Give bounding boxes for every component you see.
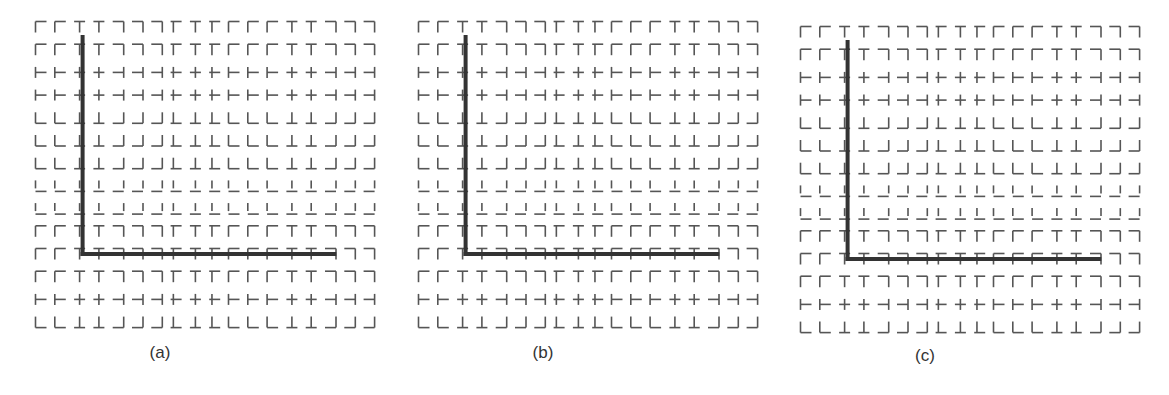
grid-glyph [1032, 185, 1043, 196]
grid-glyph [936, 140, 947, 151]
grid-glyph [1129, 276, 1140, 287]
grid-glyph [1109, 117, 1120, 128]
grid-glyph [897, 117, 908, 128]
grid-glyph [936, 299, 947, 310]
grid-glyph [1109, 72, 1120, 83]
grid-glyph [936, 27, 947, 38]
grid-glyph [994, 299, 1005, 310]
grid-glyph [878, 49, 889, 60]
grid-glyph [936, 49, 947, 60]
grid-glyph [1013, 231, 1024, 242]
grid-glyph [878, 185, 889, 196]
grid-glyph [878, 231, 889, 242]
grid-glyph [897, 72, 908, 83]
grid-glyph [1071, 163, 1082, 174]
grid-glyph [936, 276, 947, 287]
grid-glyph [897, 322, 908, 333]
grid-glyph [936, 95, 947, 106]
grid-glyph [820, 254, 831, 265]
grid-glyph [1071, 140, 1082, 151]
grid-glyph [1051, 276, 1062, 287]
grid-glyph [994, 49, 1005, 60]
grid-glyph [1032, 208, 1043, 219]
grid-glyph [994, 72, 1005, 83]
grid-glyph [1129, 163, 1140, 174]
grid-glyph [1090, 276, 1101, 287]
grid-glyph [916, 299, 927, 310]
grid-glyph [820, 27, 831, 38]
grid-glyph [897, 49, 908, 60]
grid-glyph [897, 299, 908, 310]
grid-glyph [916, 276, 927, 287]
grid-glyph [916, 49, 927, 60]
grid-glyph [839, 276, 850, 287]
grid-glyph [916, 95, 927, 106]
grid-glyph [936, 322, 947, 333]
grid-glyph [955, 299, 966, 310]
grid-glyph [1090, 72, 1101, 83]
grid-glyph [1129, 95, 1140, 106]
grid-glyph [1090, 140, 1101, 151]
grid-glyph [1051, 117, 1062, 128]
grid-glyph [936, 163, 947, 174]
grid-glyph [801, 231, 812, 242]
grid-glyph [936, 231, 947, 242]
grid-glyph [974, 299, 985, 310]
grid-glyph [801, 27, 812, 38]
grid-glyph [820, 231, 831, 242]
grid-glyph [820, 322, 831, 333]
grid-glyph [1129, 185, 1140, 196]
grid-glyph [878, 95, 889, 106]
grid-glyph [897, 27, 908, 38]
grid-glyph [1032, 72, 1043, 83]
grid-glyph [1090, 163, 1101, 174]
grid-glyph [839, 27, 850, 38]
grid-glyph [820, 163, 831, 174]
grid-glyph [1090, 231, 1101, 242]
grid-glyph [858, 49, 869, 60]
grid-glyph [1109, 185, 1120, 196]
grid-glyph [916, 72, 927, 83]
grid-glyph [1051, 140, 1062, 151]
grid-glyph [878, 299, 889, 310]
grid-glyph [878, 322, 889, 333]
grid-glyph [1032, 140, 1043, 151]
grid-glyph [955, 49, 966, 60]
grid-glyph [1090, 95, 1101, 106]
grid-glyph [1109, 49, 1120, 60]
grid-glyph [1051, 231, 1062, 242]
grid-glyph [897, 208, 908, 219]
grid-glyph [974, 117, 985, 128]
grid-glyph [820, 208, 831, 219]
grid-glyph [1013, 72, 1024, 83]
glyph-grid-c [0, 0, 1169, 395]
grid-glyph [916, 140, 927, 151]
grid-glyph [1032, 322, 1043, 333]
grid-glyph [974, 276, 985, 287]
grid-glyph [955, 117, 966, 128]
grid-glyph [1109, 208, 1120, 219]
grid-glyph [1013, 140, 1024, 151]
grid-glyph [1129, 72, 1140, 83]
grid-glyph [1032, 276, 1043, 287]
grid-glyph [858, 185, 869, 196]
grid-glyph [858, 208, 869, 219]
grid-glyph [1013, 299, 1024, 310]
grid-glyph [839, 299, 850, 310]
grid-glyph [955, 27, 966, 38]
grid-glyph [1032, 299, 1043, 310]
grid-glyph [858, 72, 869, 83]
grid-glyph [1071, 276, 1082, 287]
grid-glyph [974, 322, 985, 333]
grid-glyph [878, 72, 889, 83]
grid-glyph [955, 95, 966, 106]
grid-glyph [916, 208, 927, 219]
grid-glyph [1013, 208, 1024, 219]
grid-glyph [974, 49, 985, 60]
grid-glyph [1071, 72, 1082, 83]
grid-glyph [1051, 299, 1062, 310]
grid-glyph [916, 231, 927, 242]
grid-glyph [916, 27, 927, 38]
grid-glyph [801, 299, 812, 310]
grid-glyph [858, 276, 869, 287]
